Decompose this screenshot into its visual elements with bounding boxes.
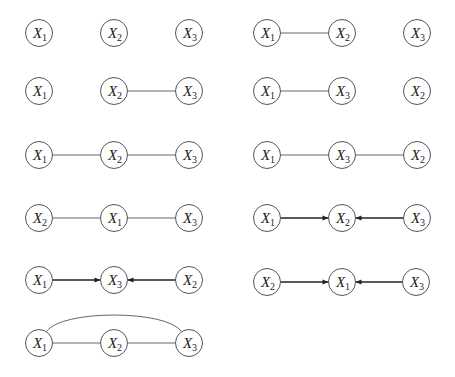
graph-g4-nodes: X1X3X2 [254,78,431,105]
node-subscript: 3 [345,90,350,101]
node-subscript: 1 [42,154,47,165]
node-subscript: 2 [345,32,350,43]
node-x2: X2 [101,20,128,47]
node-x2: X2 [404,142,431,169]
node-x3: X3 [403,269,430,296]
node-subscript: 2 [192,279,197,290]
node-subscript: 2 [117,342,122,353]
nodes-layer: X1X2X3X1X2X3X1X2X3X1X3X2X1X2X3X1X3X2X2X1… [26,20,431,357]
graph-structures-diagram: X1X2X3X1X2X3X1X2X3X1X3X2X1X2X3X1X3X2X2X1… [0,0,455,377]
node-subscript: 1 [270,154,275,165]
node-x2: X2 [101,330,128,357]
node-x1: X1 [254,20,281,47]
node-x1: X1 [26,20,53,47]
node-subscript: 3 [192,90,197,101]
node-x1: X1 [26,267,53,294]
node-x3: X3 [176,205,203,232]
graph-g6-nodes: X1X3X2 [254,142,431,169]
node-x2: X2 [329,205,356,232]
node-subscript: 2 [345,217,350,228]
graph-g9-nodes: X1X3X2 [26,267,203,294]
node-subscript: 1 [42,32,47,43]
node-x1: X1 [26,78,53,105]
node-subscript: 1 [270,32,275,43]
node-subscript: 3 [117,279,122,290]
node-subscript: 1 [42,279,47,290]
node-subscript: 3 [420,32,425,43]
node-x3: X3 [329,142,356,169]
node-x3: X3 [404,205,431,232]
node-subscript: 2 [117,154,122,165]
node-subscript: 2 [420,154,425,165]
node-subscript: 3 [192,32,197,43]
node-x3: X3 [101,267,128,294]
node-x1: X1 [254,205,281,232]
node-subscript: 3 [192,217,197,228]
node-subscript: 3 [192,154,197,165]
graph-g8-nodes: X1X2X3 [254,205,431,232]
graph-g3-nodes: X1X2X3 [26,78,203,105]
node-subscript: 1 [345,281,350,292]
node-x3: X3 [329,78,356,105]
node-subscript: 2 [420,90,425,101]
node-subscript: 3 [420,217,425,228]
node-x3: X3 [176,142,203,169]
node-x1: X1 [26,330,53,357]
node-x2: X2 [101,78,128,105]
node-x3: X3 [176,78,203,105]
node-x3: X3 [176,330,203,357]
node-x1: X1 [329,269,356,296]
node-subscript: 3 [345,154,350,165]
node-subscript: 2 [117,90,122,101]
node-subscript: 3 [419,281,424,292]
node-subscript: 2 [270,281,275,292]
graph-g10-nodes: X2X1X3 [254,269,430,296]
graph-g1-nodes: X1X2X3 [26,20,203,47]
node-subscript: 1 [270,90,275,101]
node-x2: X2 [404,78,431,105]
graph-g5-nodes: X1X2X3 [26,142,203,169]
graph-g7-nodes: X2X1X3 [26,205,203,232]
graph-g11-nodes: X1X2X3 [26,330,203,357]
node-subscript: 1 [42,90,47,101]
node-x3: X3 [404,20,431,47]
node-subscript: 1 [42,342,47,353]
node-subscript: 3 [192,342,197,353]
node-x1: X1 [101,205,128,232]
node-x2: X2 [254,269,281,296]
node-subscript: 2 [42,217,47,228]
node-subscript: 1 [270,217,275,228]
node-x2: X2 [176,267,203,294]
node-x1: X1 [254,142,281,169]
node-subscript: 1 [117,217,122,228]
node-subscript: 2 [117,32,122,43]
node-x2: X2 [26,205,53,232]
node-x3: X3 [176,20,203,47]
node-x2: X2 [329,20,356,47]
node-x2: X2 [101,142,128,169]
node-x1: X1 [254,78,281,105]
graph-g2-nodes: X1X2X3 [254,20,431,47]
node-x1: X1 [26,142,53,169]
